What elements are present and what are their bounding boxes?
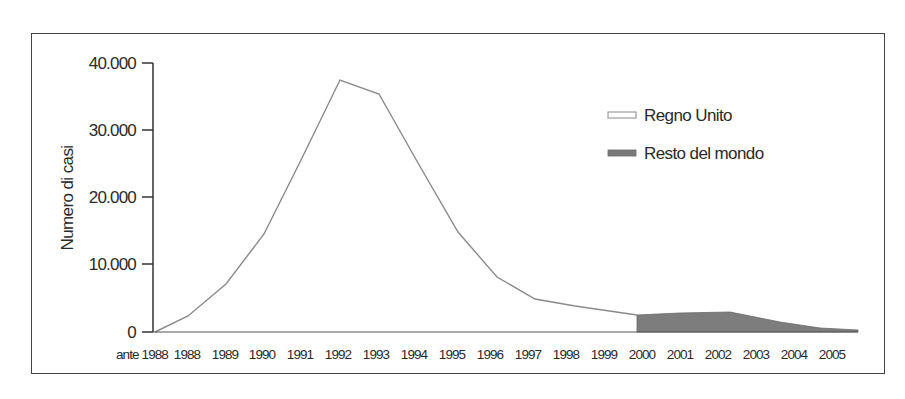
x-label-ante-1988: ante 1988 [116,347,168,362]
legend-label-resto-del-mondo: Resto del mondo [644,144,764,163]
x-tick-labels: ante 1988 1988 1989 1990 1991 1992 1993 … [116,347,846,362]
legend: Regno Unito Resto del mondo [608,106,764,163]
y-tick-10000: 10.000 [89,255,137,274]
x-label-1989: 1989 [212,347,239,362]
y-tick-30000: 30.000 [89,121,137,140]
x-label-1996: 1996 [477,347,504,362]
x-label-1994: 1994 [401,347,429,362]
x-label-1990: 1990 [249,347,276,362]
x-label-2005: 2005 [819,347,846,362]
y-axis-label: Numero di casi [58,146,77,251]
legend-swatch-regno-unito [608,112,636,118]
x-label-2000: 2000 [629,347,656,362]
y-tick-20000: 20.000 [89,188,137,207]
y-tick-labels: 40.000 30.000 20.000 10.000 0 [89,54,137,342]
y-tick-40000: 40.000 [89,54,137,73]
legend-label-regno-unito: Regno Unito [644,106,732,125]
y-tick-0: 0 [127,323,136,342]
x-label-2004: 2004 [781,347,809,362]
chart-svg: 40.000 30.000 20.000 10.000 0 Numero di … [0,0,905,399]
x-label-1992: 1992 [325,347,352,362]
legend-swatch-resto-del-mondo [608,150,636,156]
x-label-1999: 1999 [591,347,618,362]
line-regno-unito [155,80,637,332]
area-resto-del-mondo [637,312,858,332]
x-label-1993: 1993 [363,347,390,362]
x-label-1988: 1988 [174,347,201,362]
x-label-1997: 1997 [515,347,542,362]
y-ticks [142,63,153,332]
x-label-1995: 1995 [439,347,466,362]
x-label-1998: 1998 [553,347,580,362]
x-label-1991: 1991 [287,347,314,362]
x-label-2001: 2001 [667,347,694,362]
x-label-2002: 2002 [705,347,732,362]
x-label-2003: 2003 [743,347,770,362]
